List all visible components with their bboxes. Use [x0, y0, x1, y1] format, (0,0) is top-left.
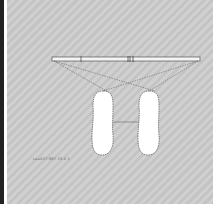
right-footprint: [138, 91, 159, 155]
footprint-diagram: [0, 0, 215, 214]
diagram-frame: Ls=627.887 25.0 1: [0, 0, 215, 214]
measurement-caption: Ls=627.887 25.0 1: [33, 157, 70, 161]
reference-bar: [52, 57, 200, 61]
left-footprint: [92, 91, 113, 155]
